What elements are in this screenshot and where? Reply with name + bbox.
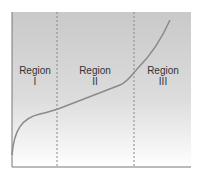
region-1-title: Region [10, 65, 60, 76]
diagram-plot [0, 0, 198, 175]
region-3-title: Region [138, 65, 188, 76]
region-2-label: Region II [70, 65, 120, 87]
region-2-numeral: II [70, 76, 120, 87]
region-1-numeral: I [10, 76, 60, 87]
plot-background [12, 12, 191, 167]
region-3-label: Region III [138, 65, 188, 87]
region-2-title: Region [70, 65, 120, 76]
region-1-label: Region I [10, 65, 60, 87]
region-3-numeral: III [138, 76, 188, 87]
